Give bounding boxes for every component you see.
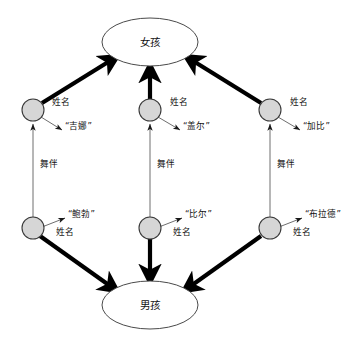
girl-node-2-name-label: 姓名 bbox=[170, 98, 188, 107]
name-edge-boy-node-2 bbox=[159, 218, 182, 227]
boy-node-3-name-label: 姓名 bbox=[293, 228, 311, 237]
girl-node-3-name-label: 姓名 bbox=[290, 98, 308, 107]
boy-node-3-value-label: “布拉德” bbox=[305, 210, 341, 219]
name-edge-girl-node-2 bbox=[158, 117, 180, 130]
girl-node-1-circle[interactable] bbox=[22, 99, 44, 121]
boy-node-2-circle[interactable] bbox=[139, 217, 161, 239]
partner-edge-3-label: 舞伴 bbox=[277, 160, 295, 169]
boy-entity-label: 男孩 bbox=[140, 300, 160, 311]
partner-edge-2-label: 舞伴 bbox=[157, 160, 175, 169]
boy-node-1-circle[interactable] bbox=[22, 217, 44, 239]
boy-node-1-value-label: “鲍勃” bbox=[68, 210, 95, 219]
name-edge-girl-node-1 bbox=[41, 117, 62, 130]
boy-node-2-name-label: 姓名 bbox=[173, 228, 191, 237]
girl-entity-label: 女孩 bbox=[140, 37, 160, 48]
partner-edge-1-label: 舞伴 bbox=[40, 160, 58, 169]
boy-node-2-value-label: “比尔” bbox=[185, 210, 212, 219]
name-edge-boy-node-3 bbox=[279, 218, 302, 227]
name-edge-boy-node-1 bbox=[42, 218, 65, 227]
boy-node-3-circle[interactable] bbox=[259, 217, 281, 239]
girl-node-2-value-label: “盖尔” bbox=[183, 122, 210, 131]
name-edge-girl-node-3 bbox=[278, 117, 300, 130]
diagram-canvas: 女孩 男孩 姓名 “吉娜” 姓名 “盖尔” 姓名 “加比” “鲍勃” 姓名 “比… bbox=[0, 0, 363, 344]
thick-edge-boy-node-3-to-boy-entity bbox=[188, 236, 261, 288]
thick-edge-girl-node-3-to-girl-entity bbox=[190, 59, 261, 103]
girl-node-2-circle[interactable] bbox=[139, 99, 161, 121]
diagram-svg bbox=[0, 0, 363, 344]
thick-edge-boy-node-1-to-boy-entity bbox=[40, 236, 113, 288]
girl-node-1-name-label: 姓名 bbox=[52, 98, 70, 107]
girl-node-3-circle[interactable] bbox=[259, 99, 281, 121]
boy-node-1-name-label: 姓名 bbox=[56, 228, 74, 237]
girl-node-3-value-label: “加比” bbox=[303, 122, 330, 131]
girl-node-1-value-label: “吉娜” bbox=[65, 122, 92, 131]
